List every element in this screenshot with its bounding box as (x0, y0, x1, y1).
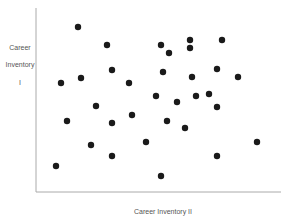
data-point (58, 80, 64, 86)
data-point (78, 75, 84, 81)
data-point (126, 80, 132, 86)
data-point (153, 93, 159, 99)
data-point (219, 37, 225, 43)
data-point (160, 69, 166, 75)
data-point (158, 173, 164, 179)
data-point (214, 153, 220, 159)
data-point (64, 118, 70, 124)
data-point (174, 99, 180, 105)
data-point (187, 37, 193, 43)
data-point (189, 74, 195, 80)
data-point (193, 93, 199, 99)
data-point (143, 139, 149, 145)
data-point (109, 120, 115, 126)
data-point (254, 139, 260, 145)
data-points (53, 24, 260, 179)
data-point (164, 118, 170, 124)
y-axis-label-line-1: Career (9, 44, 31, 51)
data-point (235, 74, 241, 80)
data-point (187, 45, 193, 51)
data-point (109, 153, 115, 159)
y-axis-label-line-2: Inventory (6, 61, 35, 69)
x-axis-label: Career Inventory II (134, 208, 192, 216)
data-point (88, 142, 94, 148)
data-point (158, 42, 164, 48)
data-point (129, 112, 135, 118)
data-point (53, 163, 59, 169)
data-point (206, 91, 212, 97)
data-point (93, 103, 99, 109)
scatter-chart: Career Inventory I Career Inventory II (0, 0, 281, 218)
data-point (214, 104, 220, 110)
data-point (104, 42, 110, 48)
data-point (166, 50, 172, 56)
y-axis-label-line-3: I (19, 79, 21, 86)
data-point (182, 125, 188, 131)
data-point (109, 67, 115, 73)
data-point (214, 66, 220, 72)
data-point (75, 24, 81, 30)
